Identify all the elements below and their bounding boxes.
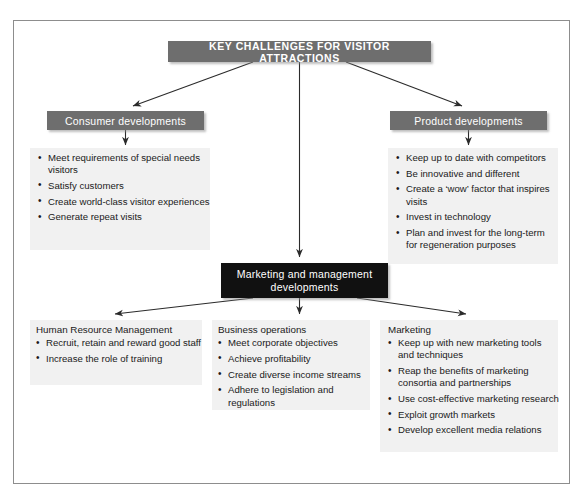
bullet-item: Satisfy customers	[38, 180, 216, 192]
center-label-line1: Marketing and management	[237, 268, 373, 281]
column-marketing: Marketing Keep up with new marketing too…	[388, 324, 560, 440]
list-product-developments: Keep up to date with competitorsBe innov…	[396, 152, 558, 255]
column-human-resource-management: Human Resource Management Recruit, retai…	[36, 324, 208, 369]
bullet-item: Recruit, retain and reward good staff	[36, 337, 208, 349]
bullet-item: Keep up to date with competitors	[396, 152, 558, 164]
diagram-title-text: KEY CHALLENGES FOR VISITOR ATTRACTIONS	[168, 40, 431, 64]
list-consumer-developments: Meet requirements of special needs visit…	[38, 152, 216, 227]
bullet-item: Create world-class visitor experiences	[38, 196, 216, 208]
diagram-title-box: KEY CHALLENGES FOR VISITOR ATTRACTIONS	[168, 41, 431, 62]
branch-label-product: Product developments	[414, 115, 522, 127]
bullet-item: Create a ‘wow’ factor that inspires visi…	[396, 183, 558, 207]
bullet-list: Keep up with new marketing tools and tec…	[388, 337, 560, 436]
bullet-list: Meet corporate objectivesAchieve profita…	[218, 337, 376, 409]
column-heading: Business operations	[218, 324, 376, 336]
bullet-item: Exploit growth markets	[388, 409, 560, 421]
bullet-list: Meet requirements of special needs visit…	[38, 152, 216, 224]
center-box-marketing-management: Marketing and management developments	[221, 263, 388, 298]
bullet-item: Adhere to legislation and regulations	[218, 384, 376, 408]
branch-box-consumer: Consumer developments	[47, 111, 204, 130]
bullet-item: Create diverse income streams	[218, 369, 376, 381]
bullet-item: Plan and invest for the long-term for re…	[396, 227, 558, 251]
bullet-item: Invest in technology	[396, 211, 558, 223]
bullet-item: Meet corporate objectives	[218, 337, 376, 349]
bullet-item: Generate repeat visits	[38, 211, 216, 223]
column-heading: Marketing	[388, 324, 560, 336]
bullet-item: Use cost-effective marketing research	[388, 393, 560, 405]
center-label-line2: developments	[271, 281, 339, 294]
bullet-item: Increase the role of training	[36, 353, 208, 365]
branch-box-product: Product developments	[390, 111, 547, 130]
bullet-item: Keep up with new marketing tools and tec…	[388, 337, 560, 361]
bullet-list: Keep up to date with competitorsBe innov…	[396, 152, 558, 251]
column-business-operations: Business operations Meet corporate objec…	[218, 324, 376, 412]
bullet-item: Develop excellent media relations	[388, 424, 560, 436]
diagram-canvas: KEY CHALLENGES FOR VISITOR ATTRACTIONS C…	[0, 0, 585, 500]
bullet-list: Recruit, retain and reward good staffInc…	[36, 337, 208, 365]
bullet-item: Meet requirements of special needs visit…	[38, 152, 216, 176]
column-heading: Human Resource Management	[36, 324, 208, 336]
bullet-item: Be innovative and different	[396, 168, 558, 180]
bullet-item: Reap the benefits of marketing consortia…	[388, 365, 560, 389]
bullet-item: Achieve profitability	[218, 353, 376, 365]
branch-label-consumer: Consumer developments	[65, 115, 186, 127]
